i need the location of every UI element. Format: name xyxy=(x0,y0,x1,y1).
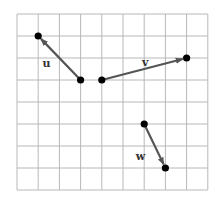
vector-u-head-point xyxy=(35,32,42,39)
vector-w-tail-point xyxy=(141,120,148,127)
vector-grid-diagram: uvw xyxy=(0,0,217,204)
vector-arrow-w xyxy=(144,124,163,164)
vector-label-w: w xyxy=(135,150,146,163)
vector-u-tail-point xyxy=(77,76,84,83)
vector-w-head-point xyxy=(162,164,169,171)
vector-label-v: v xyxy=(141,56,149,69)
grid xyxy=(17,14,208,190)
vector-v-tail-point xyxy=(98,76,105,83)
vector-v-head-point xyxy=(183,54,190,61)
vector-label-u: u xyxy=(42,57,50,70)
